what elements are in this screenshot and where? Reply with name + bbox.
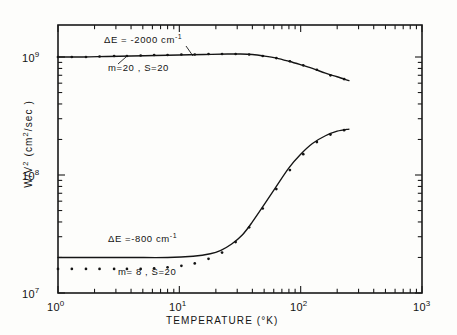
series-3-point [329, 133, 332, 136]
series-1-point [316, 68, 319, 71]
series-3-point [57, 268, 60, 271]
series-3-point [70, 268, 73, 271]
series-3-point [98, 268, 101, 271]
y-tick-label-1e7: 107 [22, 286, 39, 300]
x-tick-label-1e2: 102 [290, 299, 307, 313]
series-3-point [180, 264, 183, 267]
y-tick-label-1e9: 109 [22, 50, 39, 64]
series-1-point [85, 56, 88, 59]
series-1-point [166, 54, 169, 57]
series-1-point [329, 74, 332, 77]
series-3-point [302, 153, 305, 156]
series-1-point [139, 54, 142, 57]
figure-canvas: 109 108 107 100 101 102 103 TEMPERATURE … [0, 0, 457, 335]
series-1-point [98, 55, 101, 58]
series-3-point [113, 268, 116, 271]
series-1-point [234, 53, 237, 56]
series-3-point [234, 241, 237, 244]
series-1-point [57, 56, 60, 59]
series-3-point [207, 257, 210, 260]
chart-plot-area [0, 0, 457, 335]
y-axis-title: W/V2 (cm2/sec ) [18, 79, 36, 209]
series-3-point [85, 268, 88, 271]
series-1-point [343, 78, 346, 81]
series-1-point [261, 55, 264, 58]
x-tick-label-1e3: 103 [413, 299, 430, 313]
series-3-point [275, 188, 278, 191]
series-1-point [289, 60, 292, 63]
series-0-line [58, 54, 349, 81]
series-3-point [289, 169, 292, 172]
series-1-point [180, 53, 183, 56]
annotation-lower-energy-gap: ΔE =-800 cm-1 [108, 232, 177, 244]
series-3-point [221, 251, 224, 254]
x-axis-title: TEMPERATURE (°K) [166, 315, 279, 326]
series-3-point [316, 141, 319, 144]
series-3-point [343, 129, 346, 132]
x-tick-label-1e0: 100 [47, 299, 64, 313]
series-1-point [248, 53, 251, 56]
annotation-upper-params: m=20 , S=20 [108, 62, 169, 73]
series-1-point [193, 53, 196, 56]
series-2-line [58, 129, 349, 257]
series-3-point [261, 207, 264, 210]
series-1-point [113, 55, 116, 58]
series-3-point [193, 262, 196, 265]
series-1-point [302, 64, 305, 67]
series-1-point [221, 53, 224, 56]
annotation-upper-energy-gap: ΔE = -2000 cm-1 [104, 33, 182, 45]
series-1-point [207, 53, 210, 56]
series-1-point [153, 54, 156, 57]
series-3-point [248, 226, 251, 229]
x-tick-label-1e1: 101 [169, 299, 186, 313]
series-1-point [275, 57, 278, 60]
annotation-lower-params: m= 8 , S=20 [118, 266, 176, 277]
series-1-point [70, 56, 73, 59]
series-1-point [126, 55, 129, 58]
